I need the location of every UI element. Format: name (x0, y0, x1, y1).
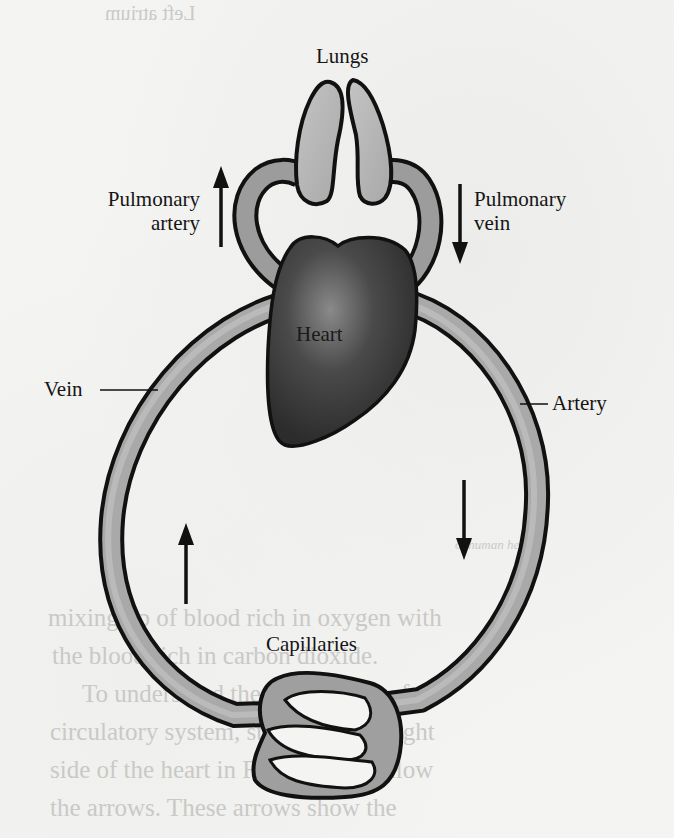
vein-flow-arrow (178, 523, 194, 604)
pulmonary-artery-label-line1: Pulmonary (40, 187, 200, 211)
pulmonary-artery-label-line2: artery (40, 211, 200, 235)
heart-label: Heart (296, 322, 343, 346)
circulation-diagram (0, 0, 674, 838)
pulmonary-artery-label: Pulmonary artery (40, 187, 200, 235)
pulmonary-vein-label-line1: Pulmonary (474, 187, 566, 211)
pulmonary-vein-arrow (452, 184, 468, 264)
pulmonary-artery-arrow (213, 166, 229, 247)
artery-flow-arrow (456, 480, 472, 560)
lungs (296, 80, 391, 204)
pulmonary-vein-label: Pulmonary vein (474, 187, 566, 235)
lungs-label: Lungs (316, 44, 369, 68)
pulmonary-vein-label-line2: vein (474, 211, 566, 235)
capillary-bed (253, 673, 401, 798)
capillaries-label: Capillaries (266, 632, 357, 656)
vein-label: Vein (44, 377, 83, 401)
artery-label: Artery (552, 391, 607, 415)
